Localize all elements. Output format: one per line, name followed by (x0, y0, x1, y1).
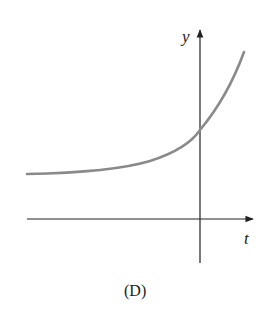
y-axis-label: y (180, 27, 190, 46)
t-axis-label: t (244, 229, 250, 248)
figure-caption: (D) (124, 282, 146, 300)
graph-figure: y t (D) (0, 0, 270, 319)
exponential-curve (27, 52, 244, 174)
